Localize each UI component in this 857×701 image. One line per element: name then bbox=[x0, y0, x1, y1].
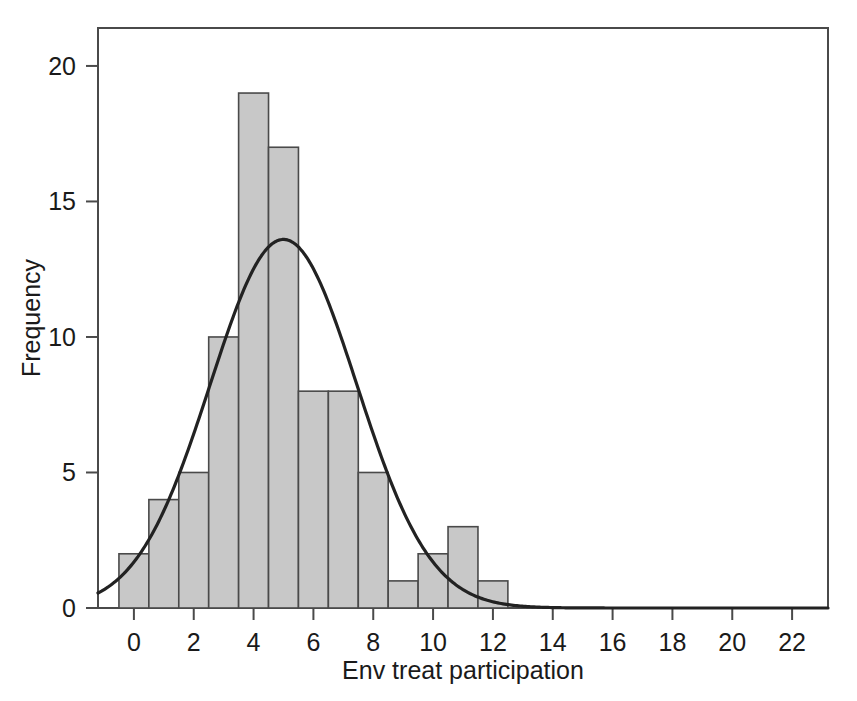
y-tick-label-5: 5 bbox=[62, 458, 76, 486]
histogram-bar bbox=[179, 472, 209, 608]
y-tick-label-20: 20 bbox=[48, 52, 76, 80]
x-tick-label-18: 18 bbox=[659, 628, 687, 656]
y-tick-label-10: 10 bbox=[48, 323, 76, 351]
x-tick-label-0: 0 bbox=[127, 628, 141, 656]
histogram-bar bbox=[269, 147, 299, 608]
x-axis-title: Env treat participation bbox=[342, 656, 584, 684]
x-tick-label-16: 16 bbox=[599, 628, 627, 656]
y-tick-label-0: 0 bbox=[62, 594, 76, 622]
x-tick-label-14: 14 bbox=[539, 628, 567, 656]
x-tick-label-20: 20 bbox=[718, 628, 746, 656]
histogram-figure: 05101520 0246810121416182022 Env treat p… bbox=[0, 0, 857, 701]
histogram-bar bbox=[149, 500, 179, 608]
x-tick-label-2: 2 bbox=[187, 628, 201, 656]
histogram-bar bbox=[298, 391, 328, 608]
x-tick-label-22: 22 bbox=[778, 628, 806, 656]
histogram-bar bbox=[239, 93, 269, 608]
histogram-bar bbox=[358, 472, 388, 608]
y-axis-title: Frequency bbox=[17, 258, 45, 377]
x-tick-label-4: 4 bbox=[247, 628, 261, 656]
x-tick-label-12: 12 bbox=[479, 628, 507, 656]
histogram-bar bbox=[388, 581, 418, 608]
y-tick-label-15: 15 bbox=[48, 187, 76, 215]
histogram-bar bbox=[328, 391, 358, 608]
x-tick-label-10: 10 bbox=[419, 628, 447, 656]
x-tick-label-6: 6 bbox=[306, 628, 320, 656]
chart-canvas: 05101520 0246810121416182022 Env treat p… bbox=[0, 0, 857, 701]
x-tick-label-8: 8 bbox=[366, 628, 380, 656]
